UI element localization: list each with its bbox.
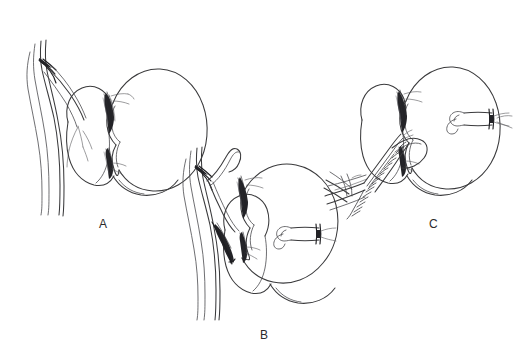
panel-label-b: B: [260, 329, 268, 341]
panel-a-great-vessels: [27, 40, 92, 216]
panel-c-kidney-body: [400, 67, 500, 189]
panel-b-great-vessels: [183, 147, 220, 320]
panel-a-renal-hilum-shading-lower: [104, 148, 126, 179]
panel-c-lateral-vessel-twigs: [497, 116, 512, 128]
panel-a-kidney-body: [107, 69, 207, 191]
panel-a-lower-pole: [113, 176, 178, 195]
panel-b: [183, 147, 361, 320]
panel-b-kidney-body: [241, 164, 338, 283]
illustration-canvas: [0, 0, 531, 353]
panel-label-a: A: [99, 218, 107, 230]
panel-b-clamp-bands: [324, 172, 361, 202]
panel-label-c: C: [429, 218, 438, 230]
panel-a: [27, 40, 207, 216]
panel-c: [325, 67, 512, 219]
panel-b-lower-pole: [270, 284, 335, 303]
panel-c-lower-pole: [407, 176, 472, 195]
surgical-figure: A B C: [0, 0, 531, 353]
panel-b-ligated-vessel-stump: [274, 224, 336, 249]
